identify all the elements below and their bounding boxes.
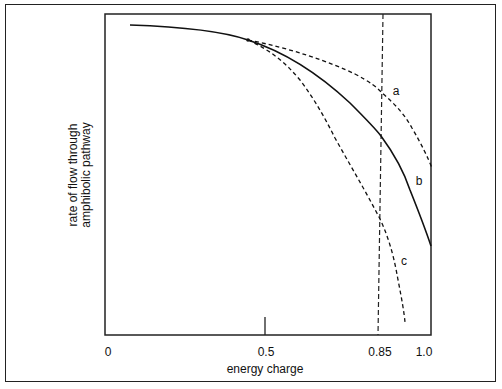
x-axis-label: energy charge (227, 362, 304, 376)
curve-b (130, 25, 431, 246)
x-tick-label-0.85: 0.85 (368, 345, 391, 359)
curve-label-c: c (401, 254, 407, 268)
x-tick-label-1.0: 1.0 (416, 345, 433, 359)
x-tick-label-0.5: 0.5 (258, 345, 275, 359)
x-tick-label-0: 0 (105, 345, 112, 359)
curve-label-b: b (416, 174, 423, 188)
y-axis-label-line2: amphibolic pathway (80, 122, 93, 227)
curve-a (248, 40, 432, 168)
y-axis-label: rate of flow through amphibolic pathway (67, 122, 93, 227)
branch-point (246, 38, 250, 42)
reference-line-0.85 (378, 14, 383, 335)
curve-label-a: a (393, 84, 400, 98)
